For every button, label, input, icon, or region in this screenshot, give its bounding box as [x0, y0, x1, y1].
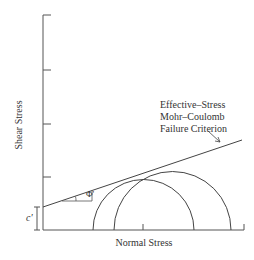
- y-axis-label: Shear Stress: [13, 100, 24, 149]
- mohr-coulomb-diagram: Shear Stress Normal Stress c' Φ' Effecti…: [0, 0, 254, 260]
- x-axis-label: Normal Stress: [116, 237, 173, 248]
- cohesion-bracket: [34, 207, 40, 230]
- friction-angle-label: Φ': [86, 189, 95, 199]
- y-axis: [43, 15, 51, 230]
- cohesion-label: c': [26, 212, 33, 223]
- criterion-label-line-2: Mohr–Coulomb: [160, 111, 224, 122]
- mohr-circle-small: [93, 179, 194, 230]
- failure-envelope-line: [43, 140, 242, 207]
- mohr-circle-large: [114, 172, 231, 230]
- criterion-label: Effective–Stress Mohr–Coulomb Failure Cr…: [160, 99, 228, 134]
- x-axis: [43, 224, 244, 230]
- criterion-label-line-1: Effective–Stress: [160, 99, 225, 110]
- criterion-label-line-3: Failure Criterion: [160, 123, 227, 134]
